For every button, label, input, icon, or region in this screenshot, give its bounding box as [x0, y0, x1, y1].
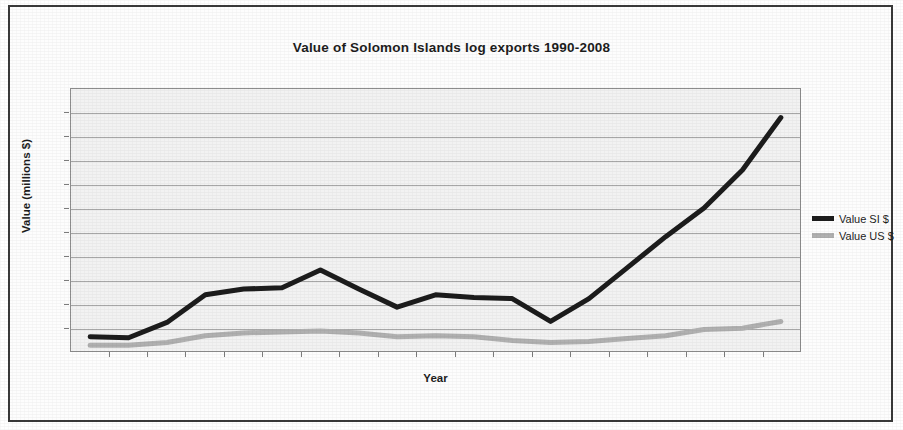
chart-screenshot: Value of Solomon Islands log exports 199…: [0, 0, 903, 430]
x-axis-tick: [147, 352, 148, 357]
legend-item[interactable]: Value US $: [812, 227, 894, 244]
x-axis-tick: [570, 352, 571, 357]
x-axis-tick: [301, 352, 302, 357]
x-axis-tick: [416, 352, 417, 357]
y-axis-tick: [64, 280, 69, 281]
x-axis-tick: [109, 352, 110, 357]
legend-item-label: Value SI $: [839, 213, 889, 225]
x-axis-tick: [724, 352, 725, 357]
y-axis-tick: [64, 112, 69, 113]
y-axis-ticks: [64, 88, 70, 352]
x-axis-ticks: [70, 352, 801, 358]
x-axis-tick: [686, 352, 687, 357]
x-axis-tick: [378, 352, 379, 357]
series-line: [90, 321, 781, 345]
y-axis-tick: [64, 208, 69, 209]
plot-inner: [71, 89, 800, 351]
x-axis-tick: [455, 352, 456, 357]
legend-item-label: Value US $: [839, 230, 894, 242]
x-axis-tick: [763, 352, 764, 357]
y-axis-tick: [64, 328, 69, 329]
x-axis-tick: [493, 352, 494, 357]
y-axis-tick: [64, 160, 69, 161]
x-axis-tick: [647, 352, 648, 357]
y-axis-tick: [64, 232, 69, 233]
chart-legend: Value SI $Value US $: [812, 210, 894, 244]
x-axis-tick: [609, 352, 610, 357]
x-axis-tick: [532, 352, 533, 357]
y-axis-label: Value (millions $): [20, 86, 32, 286]
x-axis-tick: [339, 352, 340, 357]
x-axis-label: Year: [70, 372, 801, 384]
legend-swatch-icon: [812, 233, 834, 238]
y-axis-tick: [64, 304, 69, 305]
y-axis-tick: [64, 136, 69, 137]
y-axis-tick: [64, 184, 69, 185]
plot-area: [70, 88, 801, 352]
x-axis-tick: [224, 352, 225, 357]
page-title: Value of Solomon Islands log exports 199…: [0, 40, 903, 55]
legend-swatch-icon: [812, 216, 834, 221]
x-axis-tick: [185, 352, 186, 357]
x-axis-tick: [262, 352, 263, 357]
series-line: [90, 118, 781, 338]
data-series-layer: [71, 89, 800, 351]
y-axis-tick: [64, 256, 69, 257]
legend-item[interactable]: Value SI $: [812, 210, 894, 227]
